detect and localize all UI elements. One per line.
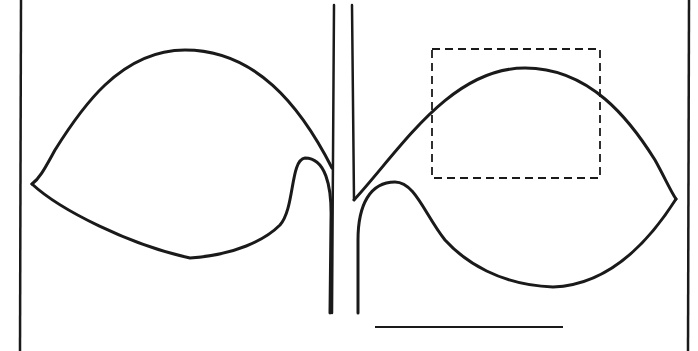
left-frame-border xyxy=(20,0,21,351)
left-leaf-lower-edge xyxy=(32,158,331,313)
right-leaf-upper-edge xyxy=(354,68,676,200)
stem-left-edge xyxy=(332,5,334,313)
leaf-diagram xyxy=(0,0,698,351)
left-leaf-upper-edge xyxy=(32,50,332,184)
stem-right-edge xyxy=(352,5,354,200)
right-leaf-lower-edge xyxy=(358,182,676,313)
right-frame-border xyxy=(688,0,689,351)
